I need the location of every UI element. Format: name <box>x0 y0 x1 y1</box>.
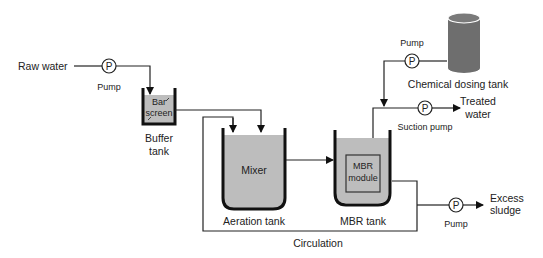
excess-sludge-label-1: Excess <box>490 192 524 204</box>
suction-pump-label: Suction pump <box>397 122 452 132</box>
circulation-label: Circulation <box>293 237 343 249</box>
pipe-to-buffer <box>116 66 150 94</box>
chemical-dosing-tank-label: Chemical dosing tank <box>408 78 509 90</box>
sludge-pump-icon: P <box>449 198 463 212</box>
svg-text:P: P <box>106 61 113 72</box>
mixer-label: Mixer <box>241 164 267 176</box>
treated-water-label-1: Treated <box>460 95 496 107</box>
raw-water-label: Raw water <box>18 60 68 72</box>
aeration-tank: Mixer <box>223 128 285 209</box>
excess-sludge-label-2: sludge <box>490 204 521 216</box>
svg-text:MBR: MBR <box>353 161 374 171</box>
svg-text:P: P <box>422 103 429 114</box>
mbr-tank-label: MBR tank <box>340 215 387 227</box>
sludge-pump-label: Pump <box>444 219 468 229</box>
bar-screen-label-1: Bar <box>152 97 166 107</box>
buffer-tank: Bar screen <box>143 88 175 124</box>
svg-text:P: P <box>453 200 460 211</box>
pipe-buffer-to-aeration <box>175 110 261 132</box>
svg-text:module: module <box>348 173 378 183</box>
dosing-pump-icon: P <box>405 54 419 68</box>
buffer-tank-label-2: tank <box>149 145 170 157</box>
mbr-module: MBR module <box>346 155 380 192</box>
treated-water-label-2: water <box>464 108 491 120</box>
svg-text:P: P <box>409 56 416 67</box>
buffer-tank-label-1: Buffer <box>145 132 173 144</box>
inlet-pump-label: Pump <box>97 82 121 92</box>
aeration-tank-label: Aeration tank <box>223 215 286 227</box>
mbr-tank: MBR module <box>335 130 390 205</box>
inlet-pump-icon: P <box>102 59 116 73</box>
dosing-to-suction-pipe <box>384 61 405 106</box>
chemical-dosing-tank-icon <box>448 13 480 74</box>
bar-screen-label-2: screen <box>145 108 172 118</box>
process-flow-diagram: Raw water P Pump Bar screen Buffer tank … <box>0 0 543 258</box>
suction-pump-icon: P <box>418 101 432 115</box>
dosing-pump-label: Pump <box>400 38 424 48</box>
